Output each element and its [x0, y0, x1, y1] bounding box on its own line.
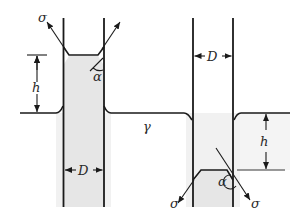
- gamma-label: γ: [143, 119, 151, 134]
- left-h-label: h: [32, 80, 40, 95]
- right-d-label: D: [206, 49, 218, 64]
- right-sigma-right-label: σ: [251, 196, 261, 211]
- left-alpha-label: α: [93, 69, 102, 84]
- left-sigma-label: σ: [38, 10, 48, 25]
- right-alpha-label: α: [218, 174, 227, 189]
- right-h-label: h: [260, 134, 268, 149]
- capillary-diagram: h h D D σ α γ α σ σ: [0, 0, 301, 223]
- left-d-label: D: [77, 163, 89, 178]
- right-sigma-left-label: σ: [170, 196, 180, 211]
